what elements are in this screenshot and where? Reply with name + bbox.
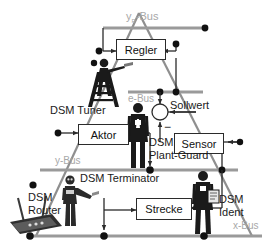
node-sensor-right xyxy=(237,139,243,145)
label-dsm-terminator: DSM Terminator xyxy=(80,173,159,184)
block-strecke[interactable]: Strecke xyxy=(136,198,192,220)
label-dsm-router-line1: DSM xyxy=(28,192,52,203)
label-e-bus: e-Bus xyxy=(128,94,154,104)
label-yr-bus-suffix: -Bus xyxy=(136,10,159,22)
label-sollwert: Sollwert xyxy=(170,100,209,111)
label-dsm-router-line2: Router xyxy=(28,205,61,216)
node-yr-left xyxy=(96,48,103,55)
label-x-bus: x-Bus xyxy=(233,221,259,231)
node-tuner-tap xyxy=(91,60,97,66)
label-dsm-tuner: DSM Tuner xyxy=(50,105,106,116)
diagram-canvas: Regler Aktor Sensor Strecke yR-Bus e-Bus… xyxy=(0,0,278,250)
node-yr-right xyxy=(173,41,180,48)
dsm-ident-figure xyxy=(192,171,219,234)
label-dsm-ident-line2: Ident xyxy=(219,207,243,218)
label-sum-minus: − xyxy=(164,121,171,133)
x-bus-line xyxy=(26,232,262,240)
yr-bus-line xyxy=(103,25,208,32)
node-y-bus-edge-left xyxy=(29,181,36,188)
node-aktor-left xyxy=(55,130,62,137)
block-aktor[interactable]: Aktor xyxy=(78,124,129,145)
label-dsm-ident-line1: DSM xyxy=(219,194,243,205)
block-regler[interactable]: Regler xyxy=(116,39,166,60)
label-y-bus: y-Bus xyxy=(55,156,81,166)
label-dsm-plant-guard-line1: DSM xyxy=(149,137,173,148)
label-yr-bus: yR-Bus xyxy=(126,11,158,24)
dsm-plant-guard-figure xyxy=(127,103,149,168)
label-dsm-plant-guard-line2: Plant-Guard xyxy=(149,150,208,161)
